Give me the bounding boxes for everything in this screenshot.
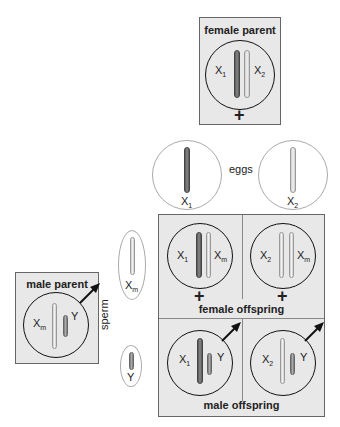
label-xm: Xm xyxy=(214,249,227,263)
chromosome-x1 xyxy=(184,147,190,193)
egg-x2: X2 xyxy=(258,140,328,210)
sperm-y: Y xyxy=(120,345,142,387)
chromosome-xm xyxy=(130,237,135,275)
punnett-grid: X1 Xm + X2 Xm + female offspring X1 Y X2… xyxy=(158,214,325,417)
male-offspring-label: male offspring xyxy=(159,399,324,411)
chromosome-y xyxy=(290,353,295,375)
label-y: Y xyxy=(71,310,78,322)
sperm-label: sperm xyxy=(98,299,110,330)
chromosome-y xyxy=(63,315,68,337)
egg-x1: X1 xyxy=(152,140,222,210)
label-x2: X2 xyxy=(262,353,273,367)
chromosome-x2 xyxy=(280,338,285,384)
label-x2: X2 xyxy=(260,249,271,263)
chromosome-y xyxy=(129,352,134,370)
label-x2: X2 xyxy=(287,195,298,209)
chromosome-x2 xyxy=(290,147,296,193)
label-x1: X1 xyxy=(177,249,188,263)
chromosome-x2 xyxy=(279,232,284,278)
label-y: Y xyxy=(300,351,307,363)
female-parent-box: female parent X1 X2 + xyxy=(199,17,281,125)
label-x2: X2 xyxy=(254,64,265,78)
eggs-label: eggs xyxy=(229,163,253,175)
sperm-xm: Xm xyxy=(118,230,146,300)
female-symbol-icon: + xyxy=(234,108,245,122)
male-symbol-arrow-icon xyxy=(302,320,326,344)
divider xyxy=(242,215,243,299)
label-xm: Xm xyxy=(297,249,310,263)
female-symbol-icon: + xyxy=(194,289,205,303)
label-xm: Xm xyxy=(33,317,46,331)
chromosome-x1 xyxy=(196,232,202,278)
label-x1: X1 xyxy=(181,195,192,209)
chromosome-x2 xyxy=(244,50,250,98)
chromosome-xm xyxy=(289,232,294,278)
female-parent-title: female parent xyxy=(200,24,280,36)
male-symbol-arrow-icon xyxy=(219,320,243,344)
label-x1: X1 xyxy=(215,64,226,78)
female-symbol-icon: + xyxy=(277,289,288,303)
chromosome-y xyxy=(207,353,212,375)
female-offspring-label: female offspring xyxy=(159,303,324,315)
chromosome-x1 xyxy=(234,50,240,98)
chromosome-xm xyxy=(52,303,57,349)
label-y: Y xyxy=(127,371,134,383)
chromosome-x1 xyxy=(197,338,203,384)
label-x1: X1 xyxy=(179,353,190,367)
divider xyxy=(159,318,324,319)
label-y: Y xyxy=(217,351,224,363)
chromosome-xm xyxy=(206,232,211,278)
label-xm: Xm xyxy=(125,279,138,293)
male-parent-box: male parent Xm Y xyxy=(15,272,99,364)
